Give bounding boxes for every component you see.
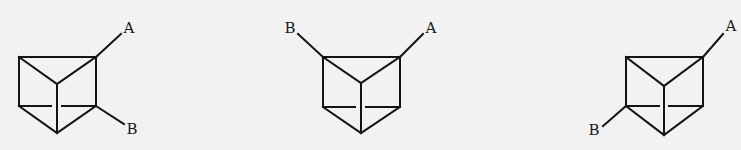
bond-substituent-b — [96, 106, 124, 124]
structure-isomer-2: B A — [284, 19, 436, 133]
bond-top-right-to-inner — [361, 57, 400, 83]
bond-bottom-left — [626, 106, 664, 135]
bond-bottom-right — [57, 106, 96, 133]
bond-substituent-a — [703, 34, 723, 57]
bond-substituent-a — [96, 34, 121, 57]
substituent-label-a: A — [425, 19, 437, 37]
bond-top-left-to-inner — [626, 57, 664, 86]
structure-isomer-3: A B — [588, 17, 736, 139]
bond-bottom-right — [664, 106, 703, 135]
bond-top-left-to-inner — [19, 57, 57, 84]
substituent-label-a: A — [123, 19, 135, 37]
substituent-label-b: B — [284, 19, 295, 37]
structure-isomer-1: A B — [19, 19, 138, 138]
bond-top-right-to-inner — [57, 57, 96, 84]
bond-substituent-b — [298, 34, 323, 57]
bond-top-left-to-inner — [323, 57, 361, 83]
bond-top-right-to-inner — [664, 57, 703, 86]
bond-substituent-b — [603, 106, 626, 126]
bond-bottom-left — [19, 106, 57, 133]
substituent-label-b: B — [126, 120, 137, 138]
substituent-label-b: B — [588, 121, 599, 139]
bond-bottom-left — [323, 107, 361, 133]
isomer-diagram: A B B A A B — [0, 0, 741, 150]
substituent-label-a: A — [725, 17, 737, 35]
bond-bottom-right — [361, 107, 400, 133]
bond-substituent-a — [400, 34, 423, 57]
